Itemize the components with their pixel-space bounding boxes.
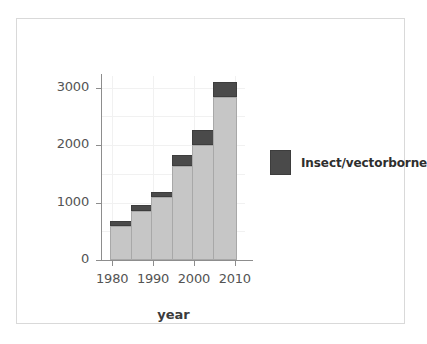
x-tick-label-2010: 2010 xyxy=(214,271,256,286)
legend-label-insect-vectorborne: Insect/vectorborne xyxy=(301,156,427,170)
chart-frame: 0100020003000 1980199020002010 year Inse… xyxy=(16,18,405,324)
y-tick-label-3000: 3000 xyxy=(43,79,89,94)
plot-area xyxy=(102,76,245,260)
y-tick-label-0: 0 xyxy=(43,251,89,266)
y-tick-label-1000: 1000 xyxy=(43,194,89,209)
x-tick-1990 xyxy=(153,260,154,266)
x-axis-line xyxy=(101,260,253,261)
chart-legend: Insect/vectorborne xyxy=(270,150,427,175)
legend-swatch-insect-vectorborne xyxy=(270,150,291,175)
x-tick-2010 xyxy=(235,260,236,266)
x-tick-label-1990: 1990 xyxy=(132,271,174,286)
bar-segment-other-2005 xyxy=(213,97,237,260)
x-tick-label-1980: 1980 xyxy=(91,271,133,286)
bar-2005 xyxy=(213,82,237,260)
bar-segment-insect-vectorborne-2005 xyxy=(213,82,237,98)
y-tick-label-2000: 2000 xyxy=(43,136,89,151)
x-axis-title: year xyxy=(102,307,245,322)
x-tick-2000 xyxy=(194,260,195,266)
x-tick-label-2000: 2000 xyxy=(173,271,215,286)
x-tick-1980 xyxy=(112,260,113,266)
y-tick-0 xyxy=(96,260,102,261)
